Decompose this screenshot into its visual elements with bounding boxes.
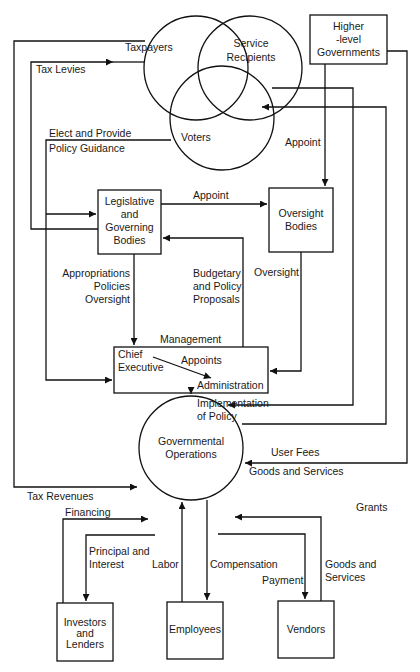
voters-circle bbox=[170, 66, 274, 170]
principal-label-1: Principal and bbox=[89, 545, 150, 558]
tax-levies-label: Tax Levies bbox=[36, 63, 86, 76]
service-recipients-label-1: Service bbox=[216, 37, 286, 50]
appoints-label: Appoints bbox=[181, 354, 222, 367]
higher-gov-label-1: Higher bbox=[310, 20, 387, 33]
higher-gov-label-2: -level bbox=[310, 33, 387, 46]
budgetary-label-1: Budgetary bbox=[193, 267, 241, 280]
administration-label: Administration bbox=[197, 379, 264, 392]
management-label: Management bbox=[160, 333, 221, 346]
elect-label-1: Elect and Provide bbox=[49, 127, 131, 140]
compensation-label: Compensation bbox=[210, 558, 278, 571]
payment-label: Payment bbox=[262, 574, 303, 587]
implementation-label-1: Implementation bbox=[197, 397, 269, 410]
legislative-label-4: Bodies bbox=[98, 234, 161, 247]
gov-ops-label-1: Governmental bbox=[141, 435, 241, 448]
appropriations-label-1: Appropriations bbox=[50, 267, 130, 280]
chief-exec-label-1: Chief bbox=[118, 348, 143, 361]
budgetary-label-2: and Policy bbox=[193, 280, 241, 293]
taxpayers-label: Taxpayers bbox=[125, 41, 173, 54]
user-fees-label: User Fees bbox=[271, 446, 319, 459]
grants-label: Grants bbox=[356, 501, 388, 514]
labor-label: Labor bbox=[152, 558, 179, 571]
legislative-label-2: and bbox=[98, 208, 161, 221]
appoint-higher-label: Appoint bbox=[285, 136, 321, 149]
legislative-label-1: Legislative bbox=[98, 195, 161, 208]
oversight-edge-label: Oversight bbox=[254, 266, 299, 279]
employees-label: Employees bbox=[166, 623, 224, 636]
service-recipients-label-2: Recipients bbox=[216, 51, 286, 64]
tax-revenues-label: Tax Revenues bbox=[27, 490, 94, 503]
goods-services-vendor-label-2: Services bbox=[325, 571, 365, 584]
appropriations-label-2: Policies bbox=[50, 280, 130, 293]
appoint-leg-label: Appoint bbox=[193, 189, 229, 202]
chief-exec-label-2: Executive bbox=[118, 361, 164, 374]
taxpayers-circle bbox=[144, 16, 248, 120]
goods-services-vendor-label-1: Goods and bbox=[325, 558, 376, 571]
implementation-label-2: of Policy bbox=[197, 410, 237, 423]
service-recipients-circle bbox=[198, 16, 302, 120]
gov-ops-label-2: Operations bbox=[141, 448, 241, 461]
higher-gov-label-3: Governments bbox=[310, 46, 387, 59]
appropriations-label-3: Oversight bbox=[50, 293, 130, 306]
oversight-label-1: Oversight bbox=[269, 207, 333, 220]
principal-label-2: Interest bbox=[89, 558, 124, 571]
financing-label: Financing bbox=[65, 506, 111, 519]
goods-services-top-label: Goods and Services bbox=[249, 465, 344, 478]
oversight-label-2: Bodies bbox=[269, 220, 333, 233]
elect-label-2: Policy Guidance bbox=[49, 142, 125, 155]
voters-label: Voters bbox=[181, 131, 211, 144]
budgetary-label-3: Proposals bbox=[193, 293, 240, 306]
vendors-label: Vendors bbox=[278, 623, 334, 636]
investors-label-3: Lenders bbox=[57, 638, 113, 651]
legislative-label-3: Governing bbox=[98, 221, 161, 234]
